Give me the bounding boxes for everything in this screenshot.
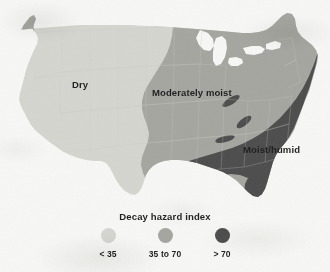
legend-caption-moderate: 35 to 70 <box>149 249 181 259</box>
legend-items: < 35 35 to 70 > 70 <box>0 228 330 259</box>
legend-caption-low: < 35 <box>99 249 116 259</box>
legend-caption-high: > 70 <box>213 249 230 259</box>
map-label-moderately-moist: Moderately moist <box>152 88 232 98</box>
map-label-dry: Dry <box>72 80 88 90</box>
legend-swatch-low <box>101 228 116 243</box>
legend-title: Decay hazard index <box>0 211 330 222</box>
legend-swatch-high <box>215 228 230 243</box>
legend: Decay hazard index < 35 35 to 70 > 70 <box>0 211 330 259</box>
legend-item-high: > 70 <box>200 228 244 259</box>
legend-item-low: < 35 <box>86 228 130 259</box>
decay-hazard-map-figure: Dry Moderately moist Moist/humid Decay h… <box>0 0 330 272</box>
legend-item-moderate: 35 to 70 <box>143 228 187 259</box>
legend-swatch-moderate <box>158 228 173 243</box>
map-label-moist-humid: Moist/humid <box>243 145 300 155</box>
